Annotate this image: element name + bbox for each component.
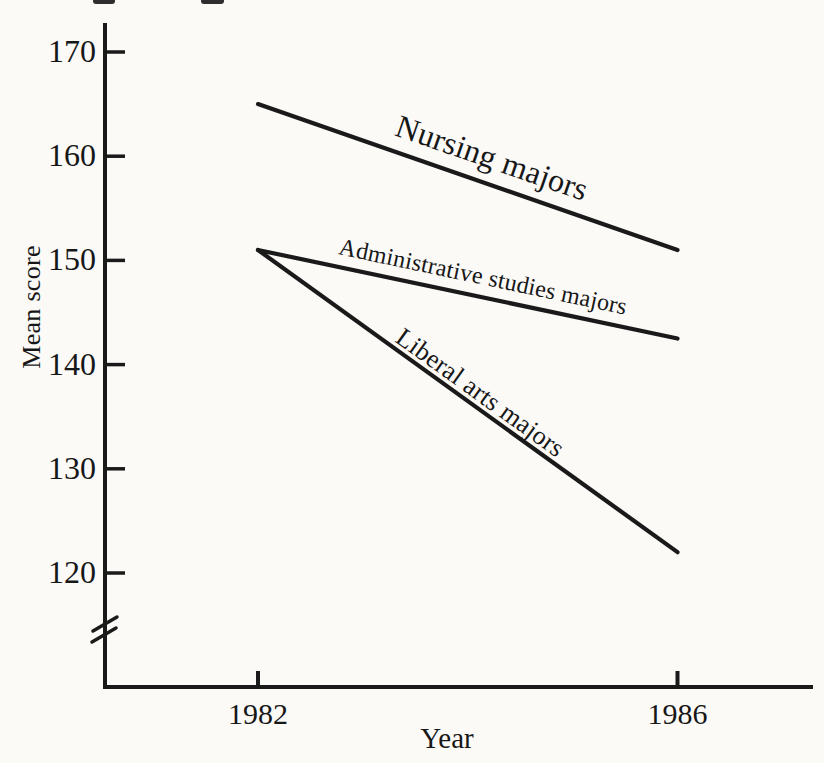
figure-container: Mean score Year 170160150140130120 19821… [0, 0, 824, 763]
y-tick-label: 120 [0, 554, 96, 591]
y-tick-label: 150 [0, 241, 96, 278]
y-tick-label: 130 [0, 450, 96, 487]
x-axis-title: Year [420, 722, 473, 755]
y-tick-label: 160 [0, 137, 96, 174]
x-tick-label: 1986 [648, 697, 708, 731]
y-tick-label: 170 [0, 33, 96, 70]
x-tick-label: 1982 [228, 697, 288, 731]
y-tick-label: 140 [0, 345, 96, 382]
nursing-majors-line [258, 104, 678, 250]
